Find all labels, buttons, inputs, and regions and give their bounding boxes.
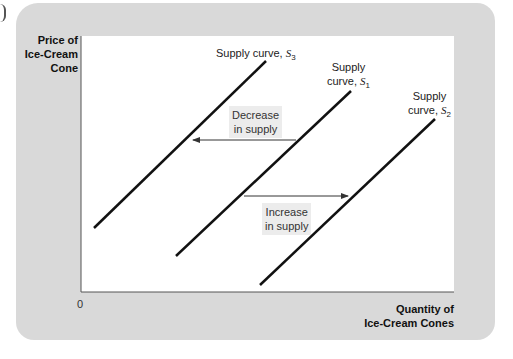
y-label-line: Cone: [20, 61, 78, 75]
decrease-in-supply-label: Decrease in supply: [229, 106, 282, 138]
label-text: Supply: [327, 60, 370, 74]
label-text: Decrease: [232, 108, 279, 122]
label-subscript: 1: [366, 81, 370, 90]
increase-in-supply-label: Increase in supply: [262, 203, 311, 235]
label-text: Increase: [265, 205, 308, 219]
label-text: Supply: [408, 89, 451, 103]
label-s3: Supply curve, S3: [216, 46, 296, 65]
x-label-line: Ice-Cream Cones: [340, 316, 454, 330]
label-subscript: 3: [291, 53, 295, 62]
origin-label: 0: [77, 298, 83, 310]
x-label-line: Quantity of: [340, 302, 454, 316]
label-s1: Supply curve, S1: [327, 60, 370, 93]
label-subscript: 2: [447, 110, 451, 119]
label-text: Supply curve,: [216, 47, 286, 59]
label-text: curve,: [408, 104, 441, 116]
label-text: in supply: [232, 122, 279, 136]
y-label-line: Ice-Cream: [20, 47, 78, 61]
label-s2: Supply curve, S2: [408, 89, 451, 122]
plot-area: [81, 36, 454, 292]
x-axis-label: Quantity of Ice-Cream Cones: [340, 302, 454, 330]
y-label-line: Price of: [20, 33, 78, 47]
label-text: curve,: [327, 75, 360, 87]
label-text: in supply: [265, 219, 308, 233]
y-axis-label: Price of Ice-Cream Cone: [20, 33, 78, 75]
